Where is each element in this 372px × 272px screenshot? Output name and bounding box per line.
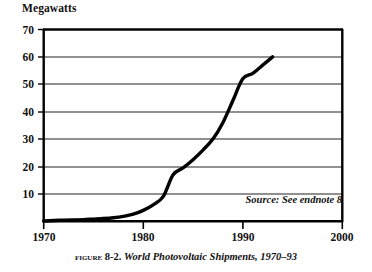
y-tick-label-60: 60 (4, 52, 34, 63)
caption-figure-word: Figure (75, 251, 102, 262)
x-tick-label-2000: 2000 (319, 231, 365, 243)
y-tick-label-10: 10 (4, 189, 34, 200)
figure-caption: Figure 8-2. World Photovoltaic Shipments… (0, 250, 372, 263)
source-note: Source: See endnote 8 (245, 194, 342, 205)
y-tick-label-50: 50 (4, 79, 34, 90)
x-tick-label-1970: 1970 (21, 231, 67, 243)
y-tick-label-40: 40 (4, 107, 34, 118)
y-tick-label-30: 30 (4, 134, 34, 145)
x-tick-label-1980: 1980 (120, 231, 166, 243)
figure-photovoltaic-shipments: Megawatts (0, 0, 372, 272)
y-tick-label-20: 20 (4, 162, 34, 173)
gridlines (43, 57, 343, 194)
x-tick-label-1990: 1990 (220, 231, 266, 243)
y-tick-label-70: 70 (4, 25, 34, 36)
caption-figure-number: 8-2. (105, 251, 122, 262)
caption-title: World Photovoltaic Shipments, 1970–93 (124, 251, 297, 262)
